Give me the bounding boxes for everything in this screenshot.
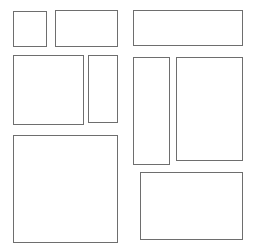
top-middle-wide-box <box>55 10 118 47</box>
mid-right-tall-box <box>133 57 170 165</box>
top-left-small-box <box>13 11 47 47</box>
bottom-left-large-box <box>13 135 118 243</box>
mid-left-square-box <box>13 55 84 125</box>
top-right-wide-box <box>133 10 243 46</box>
mid-narrow-tall-box <box>88 55 118 123</box>
far-right-tall-box <box>176 57 243 161</box>
wireframe-canvas <box>0 0 256 252</box>
bottom-right-wide-box <box>140 172 243 240</box>
